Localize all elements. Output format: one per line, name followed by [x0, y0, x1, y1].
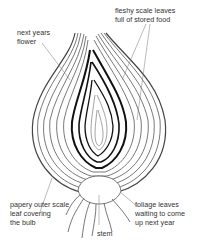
- label-outer-scale: papery outer scale leaf covering the bul…: [10, 200, 69, 227]
- label-flower: next years flower: [17, 28, 50, 46]
- label-scale-leaves: fleshy scale leaves full of stored food: [115, 6, 175, 24]
- label-stem: stem: [97, 229, 113, 238]
- label-foliage: foliage leaves waiting to come up next y…: [135, 200, 185, 227]
